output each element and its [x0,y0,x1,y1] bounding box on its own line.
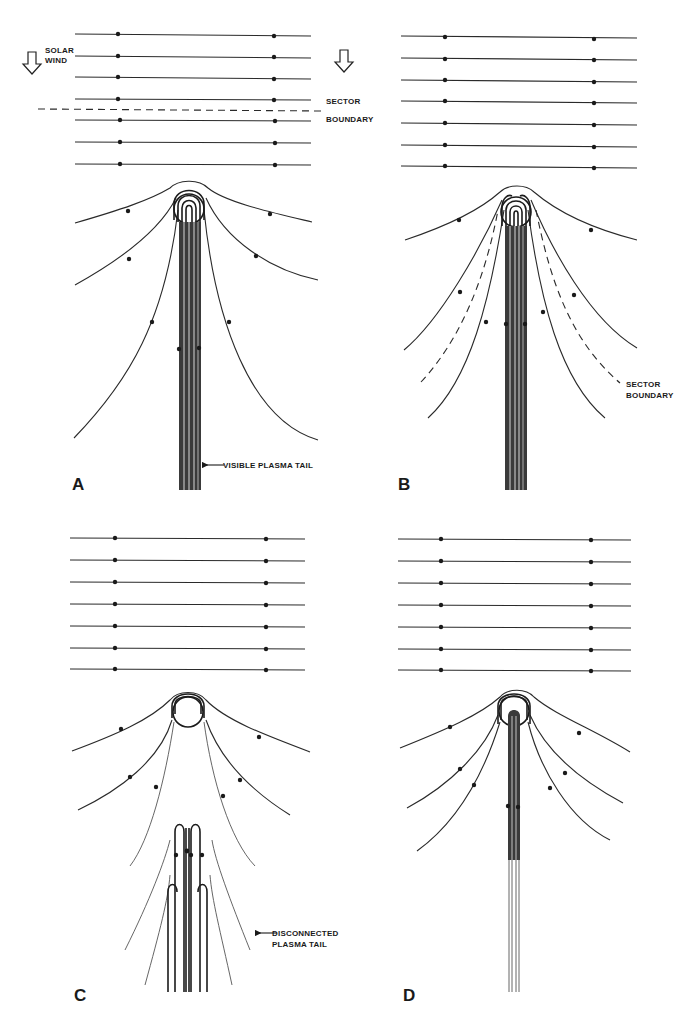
field-lines-b [401,35,637,170]
sector-boundary-line [38,109,322,111]
field-lines-a [75,32,311,167]
panel-letter-d: D [403,986,415,1005]
disconnected-tail-label-1: DISCONNECTED [272,929,338,938]
panel-a: SOLAR WIND SECTOR BOUNDARY [23,32,374,494]
comet-c [168,694,207,992]
panel-letter-c: C [74,986,86,1005]
tail-label: VISIBLE PLASMA TAIL [223,461,313,470]
sector-boundary-label-2: BOUNDARY [326,115,374,124]
field-lines-c [70,536,305,672]
panel-c: DISCONNECTED PLASMA TAIL C [70,536,338,1005]
sector-boundary-label-1: SECTOR [626,380,660,389]
down-arrow-icon [335,50,353,72]
disconnected-tail-label-2: PLASMA TAIL [272,940,327,949]
comet-diagram: SOLAR WIND SECTOR BOUNDARY [0,0,675,1013]
comet-d [498,694,530,992]
panel-letter-b: B [398,475,410,494]
panel-d: D [398,537,631,1005]
down-arrow-icon [23,52,41,74]
sector-boundary-label-2: BOUNDARY [626,391,674,400]
comet-a [174,191,204,491]
comet-b [501,196,531,491]
solar-wind-label-2: WIND [45,56,67,65]
panel-b: SECTOR BOUNDARY B [398,35,674,494]
solar-wind-label-1: SOLAR [45,46,74,55]
field-lines-d [398,537,631,673]
panel-letter-a: A [72,475,84,494]
sector-boundary-label-1: SECTOR [326,97,360,106]
